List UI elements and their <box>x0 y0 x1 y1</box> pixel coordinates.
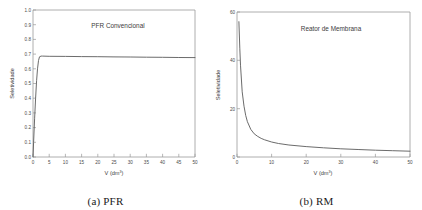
y-tick-labels: 0.0 0.1 0.2 0.3 0.4 0.5 0.6 0.7 0.8 0.9 … <box>25 8 32 160</box>
data-series-pfr <box>33 56 195 157</box>
plot-area-rm: 0 20 40 60 0 10 20 30 40 50 V (dm3) Sele… <box>211 0 422 182</box>
x-tick-labels: 0 10 20 30 40 50 <box>236 160 413 165</box>
x-tick-label: 20 <box>304 160 310 165</box>
y-axis-title: Seletividade <box>9 68 15 98</box>
y-tick-label: 0.9 <box>25 23 32 28</box>
y-ticks <box>33 10 36 157</box>
x-tick-label: 10 <box>269 160 275 165</box>
x-tick-label: 35 <box>144 160 150 165</box>
y-tick-label: 20 <box>230 107 236 112</box>
plot-area-pfr: 0.0 0.1 0.2 0.3 0.4 0.5 0.6 0.7 0.8 0.9 … <box>0 0 211 182</box>
y-tick-label: 1.0 <box>25 8 32 13</box>
x-tick-label: 30 <box>128 160 134 165</box>
y-tick-label: 0.4 <box>25 96 32 101</box>
x-axis-title: V (dm3) <box>314 170 333 176</box>
figure-panel-b: 0 20 40 60 0 10 20 30 40 50 V (dm3) Sele… <box>211 0 422 210</box>
chart-svg-pfr: 0.0 0.1 0.2 0.3 0.4 0.5 0.6 0.7 0.8 0.9 … <box>0 0 211 182</box>
x-tick-label: 10 <box>63 160 69 165</box>
x-tick-label: 50 <box>192 160 198 165</box>
x-tick-label: 40 <box>373 160 379 165</box>
x-tick-labels: 0 5 10 15 20 25 30 35 40 45 50 <box>32 160 198 165</box>
x-tick-label: 25 <box>111 160 117 165</box>
x-tick-label: 0 <box>236 160 239 165</box>
panel-caption-b: (b) RM <box>211 195 422 207</box>
y-tick-label: 0.0 <box>25 155 32 160</box>
x-tick-label: 20 <box>95 160 101 165</box>
x-ticks <box>237 154 410 157</box>
y-tick-label: 0.5 <box>25 81 32 86</box>
y-tick-label: 0.1 <box>25 140 32 145</box>
x-tick-label: 0 <box>32 160 35 165</box>
x-tick-label: 40 <box>160 160 166 165</box>
figure-row: 0.0 0.1 0.2 0.3 0.4 0.5 0.6 0.7 0.8 0.9 … <box>0 0 422 210</box>
x-tick-label: 5 <box>48 160 51 165</box>
chart-svg-rm: 0 20 40 60 0 10 20 30 40 50 V (dm3) Sele… <box>211 0 422 182</box>
x-axis-title: V (dm3) <box>105 170 124 176</box>
y-axis-title: Seletividade <box>215 70 221 100</box>
figure-panel-a: 0.0 0.1 0.2 0.3 0.4 0.5 0.6 0.7 0.8 0.9 … <box>0 0 211 210</box>
x-tick-label: 45 <box>176 160 182 165</box>
x-tick-label: 15 <box>79 160 85 165</box>
x-tick-label: 50 <box>407 160 413 165</box>
y-tick-label: 0.2 <box>25 125 32 130</box>
y-tick-label: 0.3 <box>25 111 32 116</box>
y-tick-label: 0.6 <box>25 67 32 72</box>
x-ticks <box>33 154 195 157</box>
y-tick-labels: 0 20 40 60 <box>230 10 236 160</box>
panel-caption-a: (a) PFR <box>0 195 211 207</box>
x-tick-label: 30 <box>338 160 344 165</box>
data-series-rm <box>239 22 410 152</box>
plot-title: Reator de Membrana <box>301 25 362 32</box>
y-tick-label: 0.7 <box>25 52 32 57</box>
plot-title: PFR Convencional <box>91 22 144 29</box>
y-tick-label: 0.8 <box>25 37 32 42</box>
y-tick-label: 40 <box>230 58 236 63</box>
y-tick-label: 60 <box>230 10 236 15</box>
